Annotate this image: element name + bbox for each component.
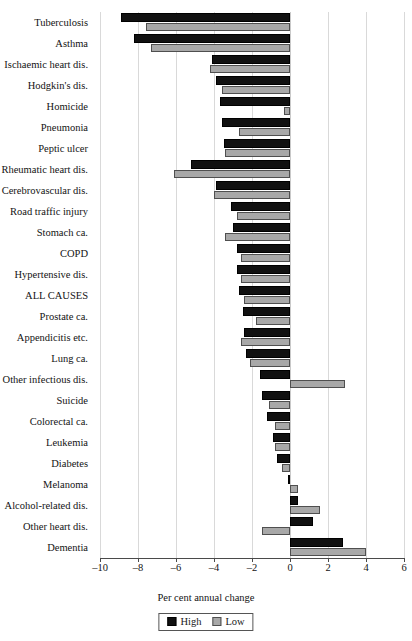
x-tick-label-6: 6: [384, 562, 412, 573]
legend-swatch-low-icon: [212, 617, 221, 626]
bar-row: [100, 13, 404, 34]
bar-low: [290, 380, 345, 388]
bar-low: [282, 464, 290, 472]
x-tick-label--8: –8: [118, 562, 158, 573]
bar-row: [100, 76, 404, 97]
bar-high: [121, 13, 290, 22]
x-tick-label--10: –10: [80, 562, 120, 573]
bar-low: [275, 443, 290, 451]
bar-high: [224, 139, 291, 148]
bar-row: [100, 517, 404, 538]
bar-high: [290, 517, 313, 526]
bar-row: [100, 286, 404, 307]
category-label: Leukemia: [46, 437, 88, 448]
x-tick-label--2: –2: [232, 562, 272, 573]
category-label: Dementia: [47, 542, 88, 553]
bar-low: [146, 23, 290, 31]
category-label: COPD: [60, 248, 88, 259]
bar-low: [244, 296, 290, 304]
legend-label-high: High: [180, 616, 201, 627]
bar-high: [216, 181, 290, 190]
bar-low: [225, 233, 290, 241]
x-tick-label-4: 4: [346, 562, 386, 573]
category-label: ALL CAUSES: [25, 290, 88, 301]
bar-high: [233, 223, 290, 232]
bar-low: [210, 65, 290, 73]
bar-row: [100, 349, 404, 370]
bar-low: [269, 401, 290, 409]
legend-label-low: Low: [225, 616, 244, 627]
category-label: Peptic ulcer: [38, 143, 88, 154]
bar-high: [212, 55, 290, 64]
bar-row: [100, 454, 404, 475]
bar-low: [290, 506, 320, 514]
bar-row: [100, 265, 404, 286]
category-label: Hodgkin's dis.: [28, 80, 88, 91]
bar-low: [284, 107, 290, 115]
bar-row: [100, 97, 404, 118]
legend: High Low: [158, 613, 253, 631]
bar-low: [151, 44, 290, 52]
category-label: Road traffic injury: [10, 206, 88, 217]
bar-high: [237, 265, 290, 274]
category-label: Pneumonia: [41, 122, 88, 133]
category-label: Melanoma: [43, 479, 88, 490]
bar-row: [100, 370, 404, 391]
bar-high: [288, 475, 290, 484]
category-label: Alcohol-related dis.: [5, 500, 88, 511]
category-label: Ischaemic heart dis.: [4, 59, 88, 70]
bar-high: [260, 370, 290, 379]
x-tick-label-0: 0: [270, 562, 310, 573]
category-label: Diabetes: [51, 458, 88, 469]
bar-high: [134, 34, 290, 43]
category-label: Other infectious dis.: [3, 374, 88, 385]
bar-low: [290, 485, 298, 493]
bar-low: [262, 527, 291, 535]
bar-high: [191, 160, 290, 169]
bar-low: [239, 128, 290, 136]
x-axis-title: Per cent annual change: [0, 592, 412, 603]
bar-high: [237, 244, 290, 253]
bar-low: [275, 422, 290, 430]
bar-low: [225, 149, 290, 157]
bar-high: [277, 454, 290, 463]
bar-low: [250, 359, 290, 367]
category-label: Tuberculosis: [34, 17, 88, 28]
bar-high: [220, 97, 290, 106]
bar-low: [241, 338, 290, 346]
bar-low: [174, 170, 290, 178]
bar-row: [100, 538, 404, 559]
category-label: Rheumatic heart dis.: [1, 164, 88, 175]
x-tick-label--6: –6: [156, 562, 196, 573]
bar-low: [214, 191, 290, 199]
legend-item-low[interactable]: Low: [212, 616, 244, 627]
bar-row: [100, 391, 404, 412]
category-axis: TuberculosisAsthmaIschaemic heart dis.Ho…: [0, 12, 94, 558]
category-label: Asthma: [55, 38, 88, 49]
category-label: Other heart dis.: [23, 521, 88, 532]
bar-high: [262, 391, 291, 400]
bar-row: [100, 412, 404, 433]
bar-high: [290, 496, 298, 505]
category-label: Colorectal ca.: [30, 416, 88, 427]
bar-row: [100, 475, 404, 496]
bar-high: [246, 349, 290, 358]
category-label: Stomach ca.: [37, 227, 88, 238]
bar-high: [290, 538, 343, 547]
bar-row: [100, 160, 404, 181]
bar-high: [239, 286, 290, 295]
x-tick-label--4: –4: [194, 562, 234, 573]
bar-row: [100, 244, 404, 265]
bar-high: [243, 307, 291, 316]
bar-row: [100, 307, 404, 328]
bar-row: [100, 55, 404, 76]
x-tick-label-2: 2: [308, 562, 348, 573]
bar-row: [100, 433, 404, 454]
bar-row: [100, 223, 404, 244]
legend-item-high[interactable]: High: [167, 616, 201, 627]
category-label: Cerebrovascular dis.: [2, 185, 88, 196]
category-label: Homicide: [47, 101, 88, 112]
bar-row: [100, 139, 404, 160]
category-label: Prostate ca.: [40, 311, 88, 322]
bar-row: [100, 328, 404, 349]
